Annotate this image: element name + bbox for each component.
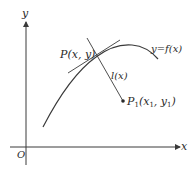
p1-close: ) [171,95,176,108]
curve-label: y=f(x) [150,43,182,54]
point-p-label: P(x, y) [59,48,95,61]
distance-label: l(x) [111,70,128,81]
origin-label: O [17,149,25,160]
point-p1-dot [121,99,125,103]
p1-sep: , y [154,95,168,108]
y-axis-label: y [21,7,29,20]
point-p1-label: P1(x1, y1) [126,95,176,109]
diagram-canvas: y x O P(x, y) y=f(x) l(x) P1(x1, y1) [0,0,195,170]
x-axis-label: x [181,140,188,153]
